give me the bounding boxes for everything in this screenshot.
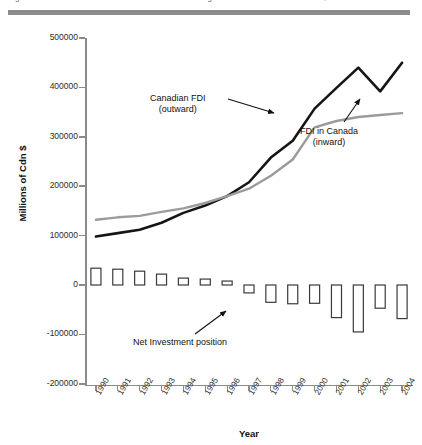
- inward-annotation: FDI in Canada (inward): [300, 126, 358, 148]
- net-position-bar: [375, 285, 385, 308]
- net-position-bar: [91, 268, 101, 285]
- outward-leader-line: [228, 99, 274, 113]
- net-position-bar: [266, 285, 276, 302]
- net-leader-line: [195, 311, 226, 334]
- inward-annotation-line1: FDI in Canada: [300, 126, 358, 136]
- net-annotation-line1: Net Investment position: [133, 337, 227, 347]
- net-annotation: Net Investment position: [133, 337, 227, 348]
- outward-annotation-line2: (outward): [159, 104, 197, 114]
- net-position-bar: [244, 285, 254, 293]
- net-position-bar: [397, 285, 407, 319]
- net-position-bar: [178, 278, 188, 285]
- net-position-bar: [200, 279, 210, 285]
- plot-layer: [0, 0, 422, 445]
- net-position-bar: [157, 274, 167, 285]
- net-position-bar: [288, 285, 298, 304]
- outward-annotation: Canadian FDI (outward): [150, 93, 206, 115]
- inward-annotation-line2: (inward): [313, 137, 346, 147]
- outward-fdi-line: [96, 63, 402, 237]
- figure-container: Figure 2 Canadian direct investment abro…: [0, 0, 422, 445]
- outward-annotation-line1: Canadian FDI: [150, 93, 206, 103]
- net-position-bar: [113, 269, 123, 285]
- net-position-bar: [310, 285, 320, 303]
- net-position-bar: [135, 271, 145, 285]
- net-position-bar: [222, 281, 232, 285]
- net-position-bar: [353, 285, 363, 332]
- net-position-bar: [331, 285, 341, 318]
